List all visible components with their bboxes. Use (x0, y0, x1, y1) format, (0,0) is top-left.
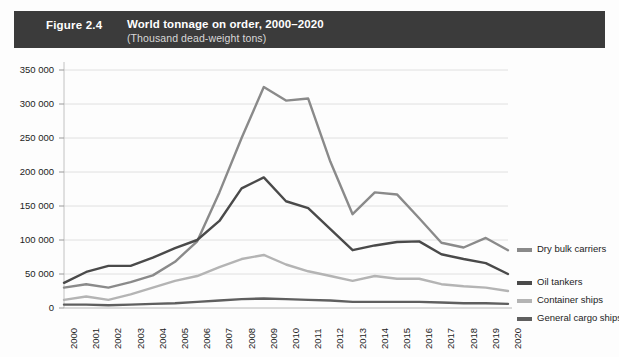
x-axis-label: 2010 (290, 328, 301, 349)
x-axis-label: 2013 (357, 328, 368, 349)
axis-ticks (59, 70, 64, 308)
figure-container: Figure 2.4 World tonnage on order, 2000–… (0, 0, 619, 357)
x-axis-label: 2016 (423, 328, 434, 349)
legend-label: Oil tankers (537, 276, 582, 287)
x-axis-label: 2015 (401, 328, 412, 349)
legend-label: General cargo ships (537, 312, 597, 323)
legend-swatch-icon (517, 299, 532, 303)
x-axis-label: 2004 (157, 328, 168, 349)
legend-swatch-icon (517, 281, 532, 285)
y-axis-label: 250 000 (2, 132, 54, 143)
x-axis-label: 2000 (68, 328, 79, 349)
y-axis-label: 150 000 (2, 200, 54, 211)
x-axis-label: 2007 (223, 328, 234, 349)
x-axis-label: 2009 (268, 328, 279, 349)
y-axis-label: 50 000 (2, 268, 54, 279)
x-axis-label: 2019 (490, 328, 501, 349)
y-axis-label: 200 000 (2, 166, 54, 177)
y-axis-label: 350 000 (2, 64, 54, 75)
x-axis-label: 2008 (246, 328, 257, 349)
x-axis-label: 2005 (179, 328, 190, 349)
data-series-group (64, 87, 508, 305)
x-axis-label: 2003 (135, 328, 146, 349)
x-axis-label: 2014 (379, 328, 390, 349)
x-axis-label: 2012 (334, 328, 345, 349)
x-axis-label: 2020 (512, 328, 523, 349)
x-axis-label: 2001 (90, 328, 101, 349)
x-axis-label: 2018 (468, 328, 479, 349)
legend-label: Container ships (537, 294, 603, 305)
y-axis-label: 100 000 (2, 234, 54, 245)
y-axis-label: 300 000 (2, 98, 54, 109)
y-axis-label: 0 (2, 302, 54, 313)
plot-area: 050 000100 000150 000200 000250 000300 0… (0, 0, 619, 357)
chart-svg (0, 0, 619, 357)
x-axis-label: 2006 (201, 328, 212, 349)
x-axis-label: 2011 (312, 329, 323, 349)
legend-swatch-icon (517, 248, 532, 252)
x-axis-label: 2002 (112, 328, 123, 349)
axis-lines (64, 62, 512, 308)
x-axis-label: 2017 (445, 328, 456, 349)
legend-swatch-icon (517, 317, 532, 321)
legend-label: Dry bulk carriers (537, 243, 606, 254)
